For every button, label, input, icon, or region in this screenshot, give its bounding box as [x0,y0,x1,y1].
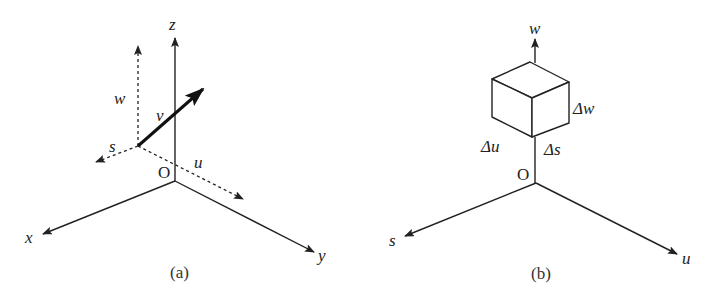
y-axis-label: y [316,246,326,265]
velocity-vector [138,89,203,146]
u-local-label: u [194,153,203,172]
s-local-label: s [109,137,116,156]
origin-label-a: O [158,163,170,182]
u-local-axis [138,146,243,199]
u-axis-label: u [682,249,691,268]
volume-element-cube [492,62,569,137]
w-axis-label: w [529,19,541,38]
diagram-canvas: z x y O w s u v (a) w s u O Δw Δu Δs (b) [0,0,708,297]
delta-s-label: Δs [543,140,561,159]
x-axis-label: x [24,228,33,247]
u-axis [536,183,677,254]
delta-u-label: Δu [480,137,499,156]
z-axis-label: z [168,15,176,34]
velocity-label: v [156,106,164,125]
y-axis [175,181,314,252]
x-axis [43,181,175,234]
w-local-label: w [114,89,126,108]
origin-label-b: O [517,165,529,184]
delta-w-label: Δw [572,99,595,118]
caption-b: (b) [531,264,551,283]
figure-b: w s u O Δw Δu Δs (b) [389,19,691,283]
s-local-axis [96,146,138,162]
s-axis [405,183,536,236]
s-axis-label: s [389,231,396,250]
figure-a: z x y O w s u v (a) [24,15,326,282]
caption-a: (a) [170,263,189,282]
